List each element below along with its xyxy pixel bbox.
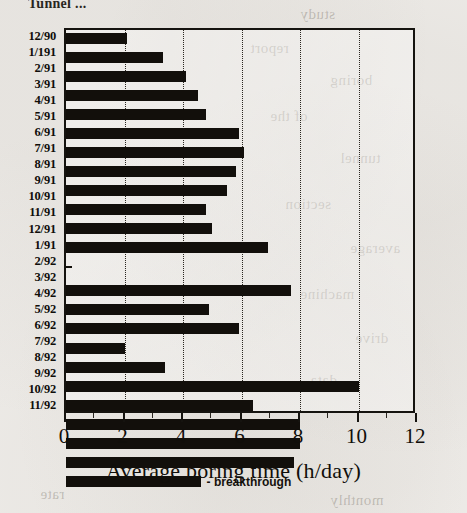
y-axis-category-labels: 12/901/1912/913/914/915/916/917/918/919/… <box>0 28 60 413</box>
bar-row <box>66 266 413 282</box>
bar-row <box>66 223 413 239</box>
bar <box>66 400 253 411</box>
bar-row <box>66 166 413 182</box>
plot-area: - breakthrough <box>64 28 415 413</box>
x-axis-ticks <box>64 413 415 423</box>
bar-row <box>66 33 413 49</box>
bar <box>66 323 239 334</box>
tick-minor <box>386 413 387 418</box>
y-axis-label: 6/92 <box>35 319 60 332</box>
y-axis-label: 1/91 <box>35 239 60 252</box>
bar-row <box>66 204 413 220</box>
bar-series: - breakthrough <box>66 30 413 411</box>
x-axis-tick-label: 8 <box>293 424 304 449</box>
y-axis-label: 11/92 <box>29 399 60 412</box>
y-axis-label: 12/91 <box>29 223 60 236</box>
tick-minor <box>93 413 94 418</box>
y-axis-label: 8/92 <box>35 351 60 364</box>
bar <box>66 204 206 215</box>
bar-row <box>66 323 413 339</box>
x-axis-tick-label: 2 <box>117 424 128 449</box>
bar <box>66 242 268 253</box>
bar <box>66 33 127 44</box>
x-axis-tick-label: 0 <box>59 424 70 449</box>
x-axis-title: Average boring time (h/day) <box>0 458 467 484</box>
tick-minor <box>152 413 153 418</box>
tick-major <box>181 413 183 422</box>
bar-row <box>66 381 413 397</box>
tick-major <box>415 413 417 422</box>
tick-major <box>298 413 300 422</box>
tick-minor <box>210 413 211 418</box>
bar <box>66 128 239 139</box>
bar <box>66 71 186 82</box>
y-axis-label: 7/92 <box>35 335 60 348</box>
y-axis-label: 6/91 <box>35 126 60 139</box>
bar-row <box>66 362 413 378</box>
y-axis-label: 2/91 <box>35 62 60 75</box>
bar-row <box>66 185 413 201</box>
y-axis-label: 11/91 <box>29 206 60 219</box>
bar-row <box>66 285 413 301</box>
bar <box>66 166 236 177</box>
y-axis-label: 12/90 <box>29 30 60 43</box>
y-axis-label: 10/91 <box>29 190 60 203</box>
x-axis-tick-label: 4 <box>176 424 187 449</box>
bar-row <box>66 90 413 106</box>
bar-row <box>66 304 413 320</box>
bar <box>66 304 209 315</box>
bar <box>66 52 163 63</box>
bar <box>66 362 165 373</box>
bar-row <box>66 109 413 125</box>
bar-row <box>66 128 413 144</box>
bar <box>66 223 212 234</box>
x-axis-tick-label: 10 <box>346 424 367 449</box>
tick-major <box>357 413 359 422</box>
x-axis-tick-label: 6 <box>234 424 245 449</box>
bar-row <box>66 242 413 258</box>
bar <box>66 266 72 268</box>
y-axis-label: 9/92 <box>35 367 60 380</box>
bar <box>66 90 198 101</box>
y-axis-label: 1/191 <box>29 46 60 59</box>
y-axis-label: 8/91 <box>35 158 60 171</box>
x-axis-tick-label: 12 <box>405 424 426 449</box>
tick-major <box>123 413 125 422</box>
bar <box>66 147 244 158</box>
tick-major <box>64 413 66 422</box>
bar-row <box>66 147 413 163</box>
y-axis-label: 5/92 <box>35 303 60 316</box>
tick-major <box>240 413 242 422</box>
y-axis-label: 9/91 <box>35 174 60 187</box>
tick-minor <box>269 413 270 418</box>
bar-row <box>66 343 413 359</box>
bar-row <box>66 52 413 68</box>
bar-row <box>66 71 413 87</box>
bar <box>66 109 206 120</box>
tick-minor <box>327 413 328 418</box>
bar <box>66 381 359 392</box>
y-axis-label: 3/91 <box>35 78 60 91</box>
y-axis-label: 2/92 <box>35 255 60 268</box>
y-axis-label: 3/92 <box>35 271 60 284</box>
bar <box>66 343 125 354</box>
y-axis-label: 10/92 <box>29 383 60 396</box>
y-axis-label: 5/91 <box>35 110 60 123</box>
chart-container: 12/901/1912/913/914/915/916/917/918/919/… <box>0 0 467 513</box>
bar <box>66 285 291 296</box>
x-axis-tick-labels: 024681012 <box>0 424 467 450</box>
y-axis-label: 7/91 <box>35 142 60 155</box>
bar <box>66 185 227 196</box>
y-axis-label: 4/91 <box>35 94 60 107</box>
y-axis-label: 4/92 <box>35 287 60 300</box>
